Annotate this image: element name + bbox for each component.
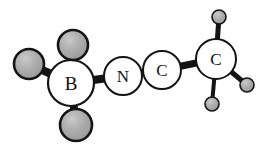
atom-h3-h xyxy=(60,109,92,141)
atom-circle-n xyxy=(104,57,142,95)
substituent-sphere xyxy=(60,109,92,141)
molecule-canvas: BNCC xyxy=(0,0,267,151)
atom-h1-h xyxy=(14,49,44,79)
atom-c2-c: C xyxy=(196,39,236,79)
atom-h2-h xyxy=(58,30,88,60)
atom-h6-h xyxy=(205,97,219,111)
atom-circle-b xyxy=(48,60,94,106)
atom-b1-b: B xyxy=(48,60,94,106)
substituent-sphere xyxy=(205,97,219,111)
atom-circle-c xyxy=(196,39,236,79)
atom-h5-h xyxy=(240,78,254,92)
atom-h4-h xyxy=(212,10,226,24)
atom-c1-c: C xyxy=(143,51,181,89)
substituent-sphere xyxy=(240,78,254,92)
atom-circle-c xyxy=(143,51,181,89)
substituent-sphere xyxy=(212,10,226,24)
molecular-structure-figure: BNCC xyxy=(0,0,267,151)
atom-n1-n: N xyxy=(104,57,142,95)
substituent-sphere xyxy=(14,49,44,79)
substituent-sphere xyxy=(58,30,88,60)
